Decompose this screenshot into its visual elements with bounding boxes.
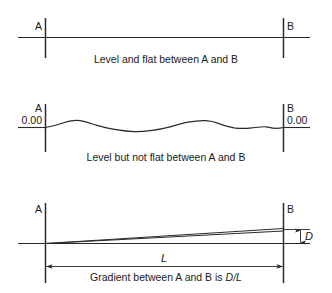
terrain-profile-undulating xyxy=(46,120,284,131)
point-a-label: A xyxy=(35,203,42,215)
panel-caption-gradient: Gradient between A and B is D/L xyxy=(90,271,242,283)
panel-level-not-flat: A 0.00 B 0.00 Level but not flat between… xyxy=(18,102,310,163)
caption-formula: D/L xyxy=(226,271,243,283)
point-b-label: B xyxy=(287,20,294,32)
diagram-root: A B Level and flat between A and B A 0.0… xyxy=(0,0,332,293)
point-a-value: 0.00 xyxy=(22,114,43,126)
point-a-label: A xyxy=(35,20,42,32)
panel-level-and-flat: A B Level and flat between A and B xyxy=(18,18,310,65)
surveying-level-gradient-diagram: A B Level and flat between A and B A 0.0… xyxy=(0,0,332,293)
point-b-value: 0.00 xyxy=(287,114,308,126)
dimension-label-rise: D xyxy=(305,230,313,242)
point-b-label: B xyxy=(287,203,294,215)
point-a-label: A xyxy=(35,102,42,114)
panel-gradient: A B D L Gradient between A and B is D/L xyxy=(18,203,313,283)
gradient-slope-line-lower xyxy=(46,231,284,244)
panel-caption-level-and-flat: Level and flat between A and B xyxy=(94,53,238,65)
panel-caption-level-not-flat: Level but not flat between A and B xyxy=(87,151,246,163)
caption-prefix: Gradient between A and B is xyxy=(90,271,225,283)
point-b-label: B xyxy=(287,102,294,114)
dimension-label-run: L xyxy=(161,252,167,264)
